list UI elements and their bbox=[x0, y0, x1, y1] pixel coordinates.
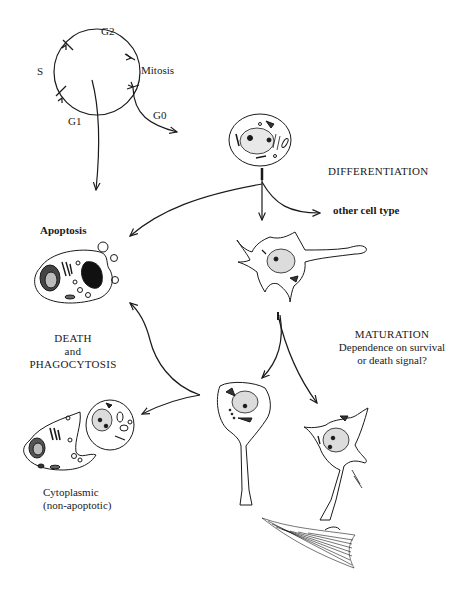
label-maturation: MATURATION bbox=[322, 328, 462, 341]
mature-cell-right bbox=[304, 408, 368, 520]
label-g0: G0 bbox=[153, 109, 166, 122]
arrow-to-mature-cell-right bbox=[278, 315, 317, 403]
label-cytoplasmic: Cytoplasmic bbox=[43, 486, 111, 499]
label-death: DEATH bbox=[26, 332, 120, 345]
label-g2: G2 bbox=[101, 25, 114, 38]
label-apoptosis: Apoptosis bbox=[40, 224, 86, 237]
cycle-arrow-icon bbox=[126, 54, 131, 60]
label-non-apoptotic: (non-apoptotic) bbox=[43, 499, 111, 512]
label-mitosis: Mitosis bbox=[141, 64, 174, 77]
phase-tick bbox=[63, 40, 73, 50]
cycle-arrow-icon bbox=[128, 82, 133, 87]
cell-cycle bbox=[54, 29, 140, 115]
label-cytoplasmic-block: Cytoplasmic (non-apoptotic) bbox=[43, 486, 111, 512]
apoptotic-cell bbox=[35, 242, 119, 303]
neuroblast-cell bbox=[237, 232, 366, 302]
muscle-fiber bbox=[262, 518, 355, 568]
arrow-cycle-to-apoptosis bbox=[92, 80, 99, 190]
label-dependence: Dependence on survival bbox=[322, 341, 462, 354]
label-death-phagocytosis: DEATH and PHAGOCYTOSIS bbox=[26, 332, 120, 371]
label-differentiation: DIFFERENTIATION bbox=[328, 165, 428, 178]
arrow-to-apoptosis bbox=[130, 184, 262, 236]
mature-cell-left bbox=[217, 382, 270, 505]
arrow-to-mature-cell-left bbox=[262, 315, 281, 378]
label-other-cell-type: other cell type bbox=[333, 204, 399, 217]
label-g1: G1 bbox=[68, 115, 81, 128]
cell-cycle-circle bbox=[54, 29, 140, 115]
label-s: S bbox=[37, 65, 43, 78]
label-maturation-block: MATURATION Dependence on survival or dea… bbox=[322, 328, 462, 367]
label-and: and bbox=[26, 345, 120, 358]
phagocytosing-cell bbox=[24, 412, 96, 470]
label-death-signal: or death signal? bbox=[322, 354, 462, 367]
cycle-arrow-icon bbox=[58, 98, 62, 103]
precursor-cell bbox=[229, 114, 291, 166]
arrow-to-apoptosis-from-mature bbox=[130, 303, 200, 395]
label-phagocytosis: PHAGOCYTOSIS bbox=[26, 358, 120, 371]
arrow-to-other-cell-type bbox=[262, 182, 320, 213]
arrow-to-phagocytosis bbox=[142, 395, 200, 414]
engulfed-cell bbox=[86, 400, 134, 450]
